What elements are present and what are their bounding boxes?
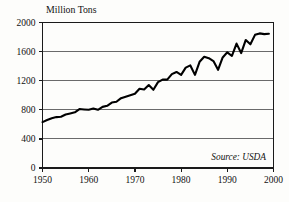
y-tick-label-2000: 2000 (17, 18, 36, 28)
chart-title: Million Tons (46, 4, 97, 15)
x-tick-label-1980: 1980 (172, 175, 191, 185)
plot-border (43, 23, 274, 169)
y-tick-label-1200: 1200 (17, 76, 36, 86)
line-chart: 0400800120016002000 19501960197019801990… (0, 0, 289, 202)
y-tick-label-1600: 1600 (17, 47, 36, 57)
data-series-line (43, 33, 269, 122)
gridlines (43, 52, 274, 139)
x-axis-tick-labels: 195019601970198019902000 (33, 175, 283, 185)
source-annotation: Source: USDA (211, 152, 266, 162)
chart-figure: 0400800120016002000 19501960197019801990… (0, 0, 289, 202)
y-tick-label-400: 400 (21, 134, 36, 144)
y-axis-tick-labels: 0400800120016002000 (17, 18, 36, 174)
x-tick-label-1960: 1960 (79, 175, 98, 185)
x-tick-label-2000: 2000 (264, 175, 283, 185)
y-tick-label-0: 0 (31, 163, 36, 173)
y-tick-label-800: 800 (21, 105, 36, 115)
x-tick-label-1950: 1950 (33, 175, 52, 185)
x-tick-label-1970: 1970 (125, 175, 144, 185)
x-tick-label-1990: 1990 (218, 175, 237, 185)
